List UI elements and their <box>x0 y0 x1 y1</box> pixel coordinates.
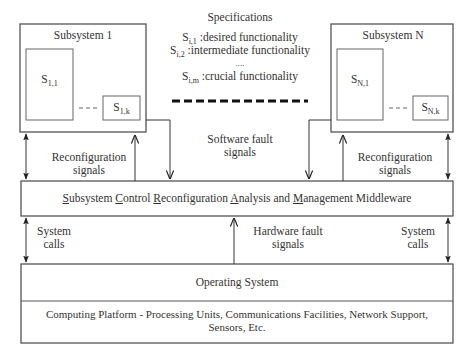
component-sn1-label: SN,1 <box>337 73 383 90</box>
component-s1k-label: S1,k <box>103 101 140 118</box>
spec-item-ellipsis: .... <box>200 57 280 70</box>
software-fault-label: Software fault signals <box>190 133 290 159</box>
subsystem-n-title: Subsystem N <box>350 29 436 42</box>
os-title: Operating System <box>21 276 453 289</box>
specifications-title: Specifications <box>190 11 290 24</box>
software-fault-left-arrow <box>146 120 170 179</box>
middleware-label: Subsystem Control Reconfiguration Analys… <box>21 192 453 205</box>
syscalls-right-label: System calls <box>396 225 440 251</box>
reconfig-left-label: Reconfiguration signals <box>44 151 134 177</box>
software-fault-right-arrow <box>309 120 331 179</box>
hardware-fault-label: Hardware fault signals <box>238 225 338 251</box>
subsystem-1-title: Subsystem 1 <box>40 29 126 42</box>
platform-description: Computing Platform - Processing Units, C… <box>21 308 453 334</box>
component-snk-label: SN,k <box>413 101 448 118</box>
syscalls-left-label: System calls <box>32 225 76 251</box>
component-s11-label: S1,1 <box>26 73 73 90</box>
spec-item-m: Si,m :crucial functionality <box>160 70 320 87</box>
reconfig-right-label: Reconfiguration signals <box>350 151 440 177</box>
